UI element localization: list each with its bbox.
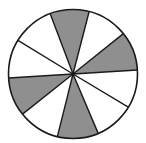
center-point [71,72,74,75]
fraction-circle-diagram [0,0,146,143]
